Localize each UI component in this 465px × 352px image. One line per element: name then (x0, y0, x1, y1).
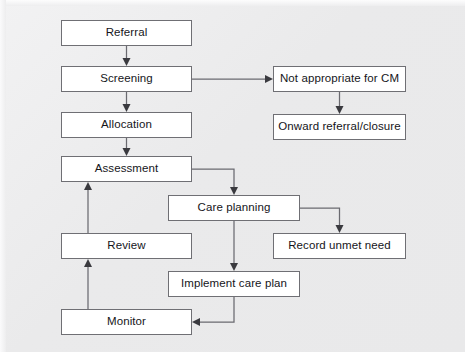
node-referral[interactable]: Referral (61, 20, 192, 46)
node-label-referral: Referral (106, 27, 148, 39)
arrowhead-icon (192, 318, 200, 326)
arrowhead-icon (230, 187, 238, 195)
connector-screening-to-not-appropriate (192, 75, 273, 83)
node-label-record-unmet-need: Record unmet need (288, 240, 391, 252)
connector-referral-to-screening (123, 46, 131, 66)
connector-care-planning-to-implement (230, 221, 238, 271)
connector-monitor-to-review (84, 259, 92, 309)
node-assessment[interactable]: Assessment (61, 156, 192, 182)
arrowhead-icon (336, 225, 344, 233)
node-label-monitor: Monitor (107, 316, 146, 328)
arrowhead-icon (265, 75, 273, 83)
connector-allocation-to-assessment (123, 138, 131, 156)
connector-not-appropriate-to-onward (336, 92, 344, 114)
node-not-appropriate[interactable]: Not appropriate for CM (273, 66, 406, 92)
node-record-unmet-need[interactable]: Record unmet need (273, 233, 406, 259)
arrowhead-icon (123, 104, 131, 112)
connector-care-planning-to-record (300, 208, 344, 233)
node-label-screening: Screening (100, 73, 153, 85)
connector-implement-to-monitor (192, 297, 234, 326)
arrowhead-icon (336, 106, 344, 114)
connector-review-to-assessment (84, 182, 92, 233)
arrowhead-icon (230, 263, 238, 271)
arrowhead-icon (123, 58, 131, 66)
arrowhead-icon (84, 182, 92, 190)
node-label-allocation: Allocation (101, 119, 152, 131)
connector-screening-to-allocation (123, 92, 131, 112)
connector-assessment-to-care-planning (192, 169, 238, 195)
node-label-assessment: Assessment (95, 163, 159, 175)
arrowhead-icon (84, 259, 92, 267)
arrowhead-icon (123, 148, 131, 156)
node-monitor[interactable]: Monitor (61, 309, 192, 335)
node-label-not-appropriate: Not appropriate for CM (280, 73, 399, 85)
node-label-review: Review (107, 240, 145, 252)
node-onward-referral[interactable]: Onward referral/closure (273, 114, 406, 140)
node-label-onward-referral: Onward referral/closure (278, 121, 400, 133)
node-implement-care-plan[interactable]: Implement care plan (168, 271, 300, 297)
node-allocation[interactable]: Allocation (61, 112, 192, 138)
node-care-planning[interactable]: Care planning (168, 195, 300, 221)
node-screening[interactable]: Screening (61, 66, 192, 92)
node-review[interactable]: Review (61, 233, 192, 259)
node-label-implement-care-plan: Implement care plan (181, 278, 287, 290)
flowchart-canvas: ReferralScreeningAllocationAssessmentRev… (0, 0, 465, 352)
node-label-care-planning: Care planning (198, 202, 271, 214)
